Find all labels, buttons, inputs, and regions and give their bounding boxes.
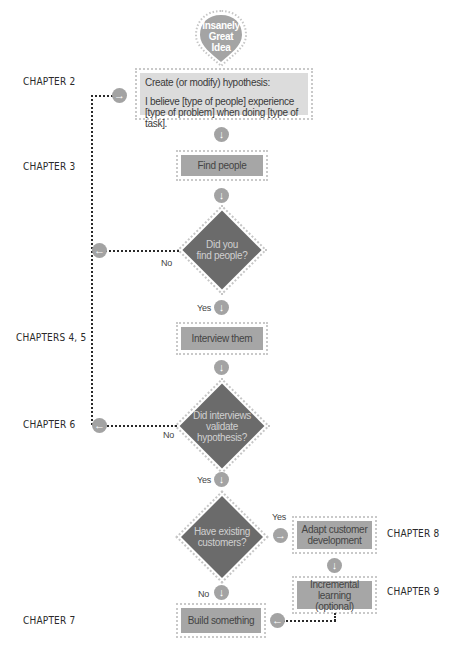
chapter-7-label: CHAPTER 7 <box>23 615 75 626</box>
did-interviews-validate-decision: Did interviews validate hypothesis? <box>174 378 270 474</box>
decision-1-line-2: find people? <box>197 250 248 261</box>
decision-1-line-1: Did you <box>197 239 248 250</box>
build-something-node: Build something <box>176 603 266 638</box>
hypothesis-node: Create (or modify) hypothesis: I believe… <box>135 68 313 120</box>
decision-2-line-1: Did interviews <box>193 410 251 421</box>
chapter-6-label: CHAPTER 6 <box>23 419 75 430</box>
incremental-to-build-horizontal <box>283 620 336 622</box>
down-arrow-icon: ↓ <box>214 472 229 487</box>
find-people-label: Find people <box>181 155 263 176</box>
build-something-label: Build something <box>181 608 261 633</box>
did-you-find-people-decision: Did you find people? <box>177 205 267 295</box>
hypothesis-line-1: I believe [type of people] experience <box>145 96 294 107</box>
chapter-4-5-label: CHAPTERS 4, 5 <box>16 332 86 343</box>
start-label-line-3: Idea <box>193 42 249 53</box>
start-label-line-1: Insanely <box>193 20 249 31</box>
hypothesis-line-2: [type of problem] when doing [type of ta… <box>145 107 303 129</box>
adapt-line-2: development <box>302 535 368 546</box>
no-label-2: No <box>163 430 174 440</box>
incremental-learning-node: Incremental learning (optional) <box>292 576 377 614</box>
yes-label-1: Yes <box>197 303 211 313</box>
down-arrow-icon: ↓ <box>214 585 229 600</box>
down-arrow-icon: ↓ <box>214 188 229 203</box>
chapter-2-label: CHAPTER 2 <box>23 76 75 87</box>
start-node-insanely-great-idea: Insanely Great Idea <box>193 8 249 68</box>
decision-2-line-2: validate <box>193 421 251 432</box>
feedback-loop-vertical-line <box>91 95 93 425</box>
decision-3-line-2: customers? <box>194 537 250 548</box>
feedback-loop-top-line <box>91 95 113 97</box>
right-arrow-icon: → <box>112 88 127 103</box>
adapt-line-1: Adapt customer <box>302 524 368 535</box>
incremental-line-2: (optional) <box>297 601 372 612</box>
no-branch-2-line <box>102 425 177 427</box>
decision-3-line-1: Have existing <box>194 526 250 537</box>
yes-label-2: Yes <box>197 475 211 485</box>
down-arrow-icon: ↓ <box>214 127 229 142</box>
incremental-line-1: Incremental learning <box>297 579 372 601</box>
find-people-node: Find people <box>176 150 268 181</box>
down-arrow-icon: ↓ <box>214 300 229 315</box>
left-arrow-icon: ← <box>92 243 107 258</box>
down-arrow-icon: ↓ <box>214 360 229 375</box>
down-arrow-icon: ↓ <box>327 558 342 573</box>
hypothesis-title: Create (or modify) hypothesis: <box>145 77 270 88</box>
adapt-customer-development-node: Adapt customer development <box>292 516 377 554</box>
no-label-1: No <box>161 258 172 268</box>
have-existing-customers-decision: Have existing customers? <box>175 490 269 584</box>
yes-label-3: Yes <box>272 512 286 522</box>
left-arrow-icon: ← <box>270 613 285 628</box>
chapter-3-label: CHAPTER 3 <box>23 161 75 172</box>
interview-them-node: Interview them <box>176 322 268 355</box>
decision-2-line-3: hypothesis? <box>193 432 251 443</box>
no-label-3: No <box>198 589 209 599</box>
start-label-line-2: Great <box>193 31 249 42</box>
chapter-9-label: CHAPTER 9 <box>387 586 439 597</box>
no-branch-1-line <box>102 250 179 252</box>
interview-them-label: Interview them <box>181 327 263 350</box>
right-arrow-icon: → <box>273 528 288 543</box>
chapter-8-label: CHAPTER 8 <box>387 528 439 539</box>
left-arrow-icon: ← <box>92 418 107 433</box>
